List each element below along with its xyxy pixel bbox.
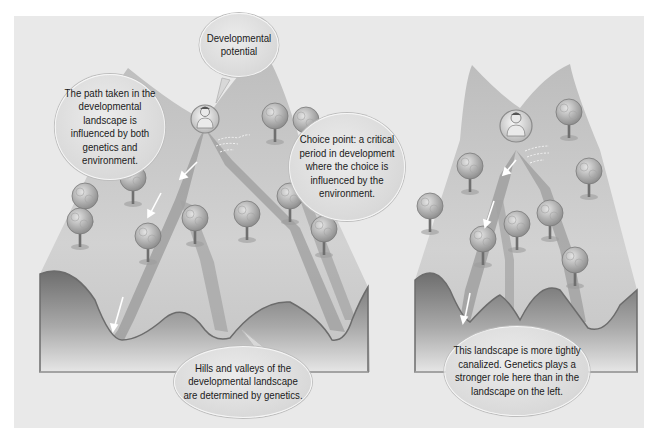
callout-hills-valleys: Hills and valleys of the developmental l… [174, 346, 312, 418]
child-figure-icon [500, 110, 532, 142]
callout-path-taken: The path taken in the developmental land… [55, 74, 165, 180]
callout-choice-point: Choice point: a critical period in devel… [289, 113, 405, 221]
child-figure-icon [191, 105, 219, 133]
callout-text: The path taken in the developmental land… [56, 87, 165, 168]
callout-text: Hills and valleys of the developmental l… [175, 362, 311, 403]
callout-text: Developmental potential [200, 32, 277, 59]
callout-canalized: This landscape is more tightly canalized… [444, 326, 589, 416]
callout-text: Choice point: a critical period in devel… [290, 133, 404, 201]
callout-developmental-potential: Developmental potential [199, 13, 278, 77]
callout-text: This landscape is more tightly canalized… [445, 344, 589, 398]
